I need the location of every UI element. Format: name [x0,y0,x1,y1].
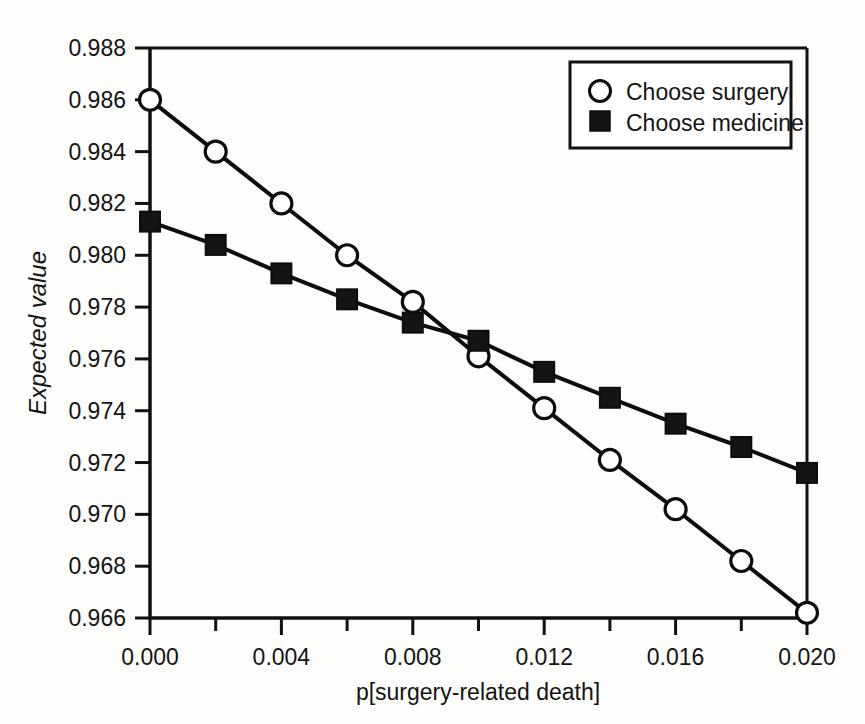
data-point-marker-filled-square [469,331,489,351]
data-point-marker-filled-square [206,235,226,255]
legend-marker-filled-square-icon [590,111,610,131]
chart-legend: Choose surgery Choose medicine [570,62,804,148]
data-point-marker-open-circle [271,193,292,214]
data-point-marker-filled-square [731,437,751,457]
x-tick-label: 0.016 [647,644,705,670]
data-point-marker-open-circle [665,499,686,520]
y-tick-label: 0.968 [68,553,126,579]
y-tick-label: 0.974 [68,398,126,424]
y-tick-label: 0.980 [68,242,126,268]
data-point-marker-filled-square [403,313,423,333]
data-point-marker-filled-square [271,263,291,283]
y-tick-label: 0.988 [68,35,126,61]
data-point-marker-filled-square [140,212,160,232]
x-tick-label: 0.004 [253,644,311,670]
data-point-marker-filled-square [600,388,620,408]
expected-value-line-chart: 0.9880.9860.9840.9820.9800.9780.9760.974… [0,0,865,724]
data-point-marker-filled-square [534,362,554,382]
x-axis-title: p[surgery-related death] [356,679,600,705]
data-point-marker-filled-square [666,414,686,434]
y-tick-label: 0.976 [68,346,126,372]
x-tick-label: 0.020 [778,644,836,670]
data-point-marker-filled-square [797,463,817,483]
legend-label-choose-medicine: Choose medicine [626,110,804,136]
y-tick-label: 0.970 [68,501,126,527]
data-point-marker-open-circle [140,89,161,110]
data-point-marker-open-circle [534,398,555,419]
y-tick-label: 0.972 [68,450,126,476]
legend-marker-open-circle-icon [590,81,611,102]
data-point-marker-open-circle [205,141,226,162]
x-tick-label: 0.000 [121,644,179,670]
y-tick-label: 0.982 [68,190,126,216]
data-point-marker-open-circle [402,291,423,312]
data-point-marker-open-circle [337,245,358,266]
y-axis-title: Expected value [24,251,51,415]
data-point-marker-open-circle [599,449,620,470]
legend-label-choose-surgery: Choose surgery [626,79,789,105]
y-tick-label: 0.984 [68,139,126,165]
y-tick-label: 0.978 [68,294,126,320]
x-tick-label: 0.008 [384,644,442,670]
y-tick-label: 0.966 [68,605,126,631]
chart-figure: 0.9880.9860.9840.9820.9800.9780.9760.974… [0,0,865,724]
data-point-marker-open-circle [731,551,752,572]
y-tick-label: 0.986 [68,87,126,113]
data-point-marker-open-circle [797,602,818,623]
x-tick-label: 0.012 [515,644,573,670]
data-point-marker-filled-square [337,289,357,309]
